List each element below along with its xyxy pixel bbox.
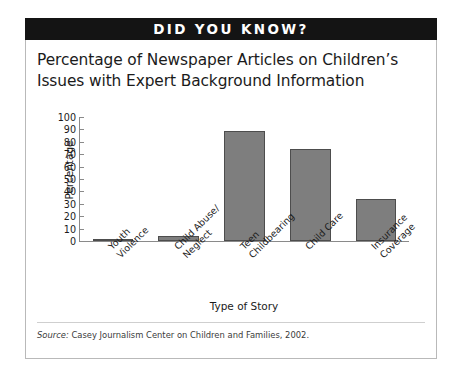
y-axis-tick-label: 100: [58, 112, 76, 123]
y-axis-tick-label: 50: [64, 174, 76, 185]
y-axis-tick-label: 80: [64, 136, 76, 147]
figure-title-line-2: Issues with Expert Background Informatio…: [37, 71, 427, 92]
y-axis-tick-label: 60: [64, 161, 76, 172]
source-note: Source: Casey Journalism Center on Child…: [37, 330, 309, 340]
source-divider: [37, 322, 425, 323]
source-label: Source:: [37, 330, 69, 340]
figure-title-line-1: Percentage of Newspaper Articles on Chil…: [37, 51, 398, 69]
figure-title: Percentage of Newspaper Articles on Chil…: [37, 50, 427, 92]
banner-title: DID YOU KNOW?: [153, 21, 309, 37]
did-you-know-banner: DID YOU KNOW?: [25, 18, 437, 40]
x-axis-title: Type of Story: [79, 300, 409, 312]
bar-chart: Percentage 0102030405060708090100 YouthV…: [33, 112, 429, 312]
y-axis-tick-label: 10: [64, 223, 76, 234]
x-axis-category-labels: YouthViolenceChild Abuse/NeglectTeenChil…: [79, 244, 409, 306]
y-axis-tick-label: 90: [64, 124, 76, 135]
source-citation: Casey Journalism Center on Children and …: [71, 330, 309, 340]
y-axis-tick: 0: [79, 241, 84, 242]
y-axis-tick-label: 0: [70, 236, 76, 247]
y-axis-tick-label: 70: [64, 149, 76, 160]
y-axis-tick-label: 20: [64, 211, 76, 222]
y-axis-tick-label: 40: [64, 186, 76, 197]
y-axis-tick-label: 30: [64, 198, 76, 209]
figure-page: DID YOU KNOW? Percentage of Newspaper Ar…: [0, 0, 460, 378]
